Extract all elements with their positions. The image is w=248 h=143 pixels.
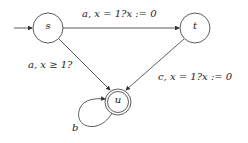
edge-u-u	[79, 99, 112, 127]
edge-u-u-label: b	[72, 122, 78, 133]
edge-t-u-label: c, x = 1?x := 0	[158, 71, 232, 82]
state-u-label: u	[108, 94, 128, 105]
edge-t-u	[126, 39, 184, 90]
edge-s-u-label: a, x ≥ 1?	[28, 59, 72, 70]
edge-s-t-label: a, x = 1?x := 0	[82, 8, 157, 19]
state-t-label: t	[185, 20, 205, 31]
state-s-label: s	[38, 20, 58, 31]
